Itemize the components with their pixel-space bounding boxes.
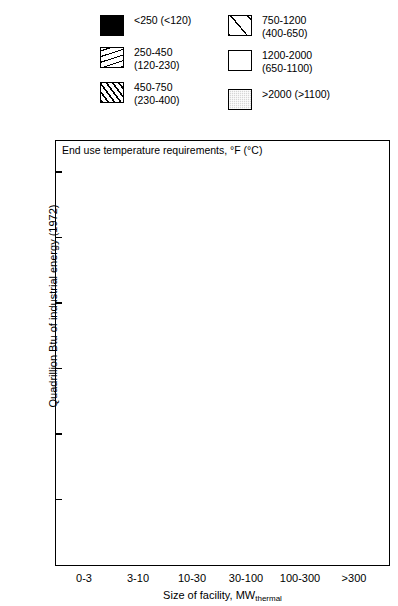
legend-label-1200-2000: 1200-2000 (650-1100) [262, 49, 313, 74]
plot-area [55, 140, 390, 566]
legend-item: 450-750 (230-400) [100, 81, 191, 106]
legend-swatch-gt2000 [228, 89, 252, 110]
legend-swatch-750-1200 [228, 15, 252, 36]
legend-swatch-250-450 [100, 47, 124, 68]
chart-note: End use temperature requirements, °F (°C… [62, 144, 262, 156]
y-tick-mark [55, 302, 62, 304]
legend-column-left: <250 (<120) 250-450 (120-230) 450-750 (2… [100, 14, 191, 116]
legend-label-750-1200: 750-1200 (400-650) [262, 14, 308, 39]
x-tick-label->300: >300 [319, 572, 389, 584]
legend-swatch-450-750 [100, 82, 124, 103]
legend-item: 250-450 (120-230) [100, 46, 191, 71]
legend-label-gt2000: >2000 (>1100) [262, 88, 330, 101]
legend-label-250-450: 250-450 (120-230) [134, 46, 180, 71]
y-tick-mark [55, 433, 62, 435]
legend-item: <250 (<120) [100, 14, 191, 36]
legend-swatch-1200-2000 [228, 50, 252, 71]
y-tick-mark [55, 499, 62, 501]
legend: <250 (<120) 250-450 (120-230) 450-750 (2… [0, 0, 398, 126]
y-axis-title: Quadrillion Btu of industrial energy (19… [47, 156, 59, 456]
legend-column-right: 750-1200 (400-650) 1200-2000 (650-1100) … [228, 14, 330, 120]
legend-item: >2000 (>1100) [228, 88, 330, 110]
legend-swatch-lt250 [100, 15, 124, 36]
y-tick-mark [55, 368, 62, 370]
legend-item: 750-1200 (400-650) [228, 14, 330, 39]
y-tick-mark [55, 171, 62, 173]
x-axis-title: Size of facility, MWthermal [55, 589, 390, 603]
x-axis-title-subscript: thermal [255, 594, 282, 603]
legend-label-lt250: <250 (<120) [134, 14, 191, 27]
legend-label-450-750: 450-750 (230-400) [134, 81, 180, 106]
legend-item: 1200-2000 (650-1100) [228, 49, 330, 74]
y-tick-mark [55, 237, 62, 239]
